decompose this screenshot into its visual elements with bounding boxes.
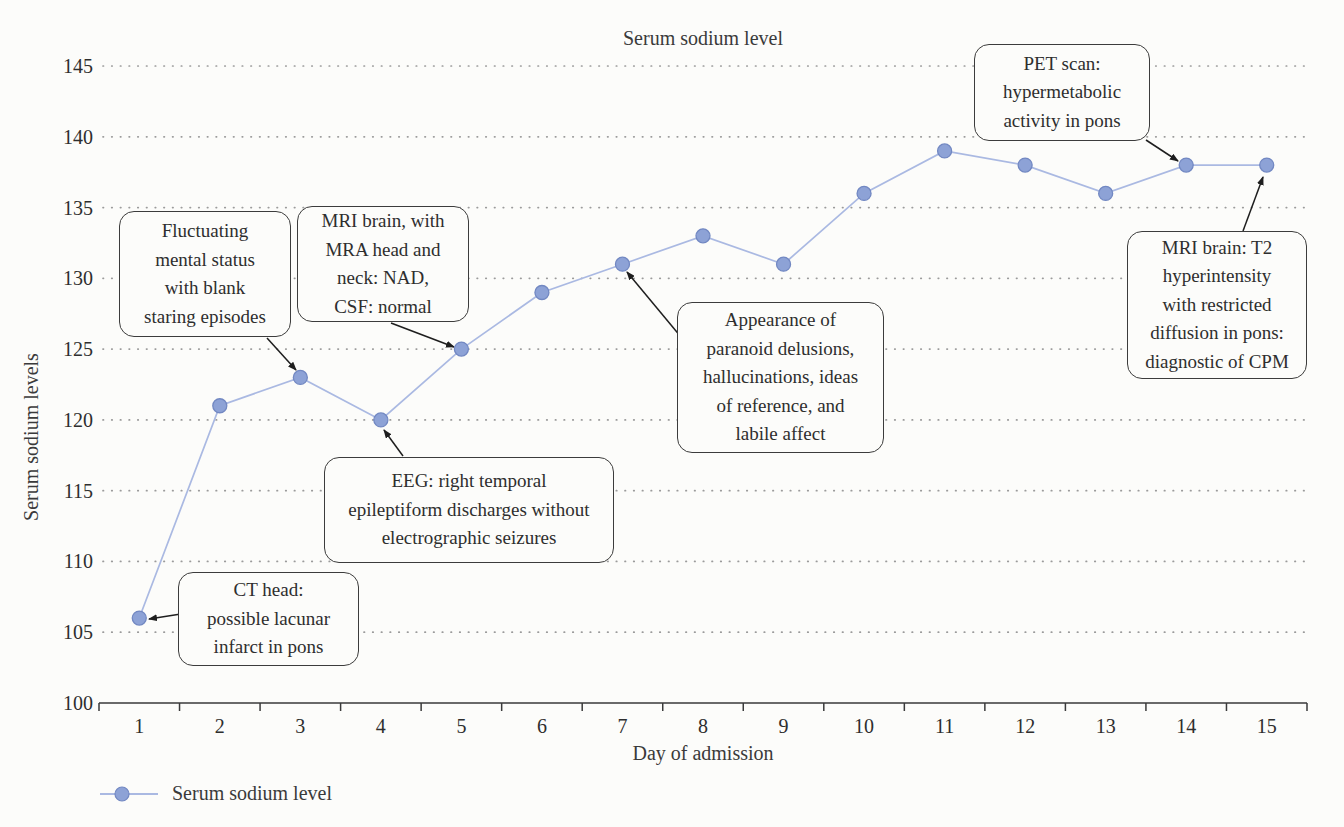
- data-point-day-15: [1260, 158, 1274, 172]
- annotation-paranoid-delusions: Appearance of paranoid delusions, halluc…: [677, 302, 884, 453]
- data-point-day-5: [454, 342, 468, 356]
- chart-figure: Serum sodium level Serum sodium levels 1…: [0, 0, 1344, 827]
- y-tick-label: 145: [63, 55, 93, 77]
- y-tick-label: 105: [63, 621, 93, 643]
- x-tick-label: 3: [295, 715, 305, 737]
- data-point-day-7: [615, 257, 629, 271]
- x-tick-label: 14: [1176, 715, 1196, 737]
- data-point-day-3: [293, 370, 307, 384]
- annotation-mri-brain-t2: MRI brain: T2 hyperintensity with restri…: [1127, 231, 1307, 379]
- x-tick-label: 2: [215, 715, 225, 737]
- x-tick-label: 4: [376, 715, 386, 737]
- x-tick-label: 15: [1257, 715, 1277, 737]
- data-point-day-13: [1099, 186, 1113, 200]
- y-tick-label: 100: [63, 692, 93, 714]
- x-tick-label: 5: [456, 715, 466, 737]
- x-tick-label: 12: [1015, 715, 1035, 737]
- legend: Serum sodium level: [98, 782, 332, 805]
- legend-label: Serum sodium level: [172, 782, 332, 805]
- annotation-arrow: [627, 272, 681, 337]
- annotation-eeg: EEG: right temporal epileptiform dischar…: [324, 457, 614, 563]
- x-tick-label: 7: [617, 715, 627, 737]
- x-tick-label: 11: [935, 715, 954, 737]
- data-point-day-12: [1018, 158, 1032, 172]
- y-tick-label: 135: [63, 197, 93, 219]
- x-tick-label: 1: [134, 715, 144, 737]
- annotation-mri-brain-mra: MRI brain, with MRA head and neck: NAD, …: [297, 206, 469, 322]
- y-tick-label: 125: [63, 338, 93, 360]
- y-tick-label: 130: [63, 267, 93, 289]
- data-point-day-10: [857, 186, 871, 200]
- y-tick-label: 140: [63, 126, 93, 148]
- data-point-day-1: [132, 611, 146, 625]
- x-tick-label: 8: [698, 715, 708, 737]
- legend-line-marker-icon: [98, 785, 160, 803]
- y-tick-label: 110: [64, 550, 93, 572]
- data-point-day-2: [213, 399, 227, 413]
- annotation-ct-head: CT head: possible lacunar infarct in pon…: [178, 572, 359, 666]
- annotation-arrow: [1146, 140, 1178, 161]
- data-point-day-11: [938, 144, 952, 158]
- annotation-pet-scan: PET scan: hypermetabolic activity in pon…: [974, 44, 1150, 141]
- x-axis-title: Day of admission: [99, 742, 1307, 765]
- x-tick-label: 6: [537, 715, 547, 737]
- annotation-arrow: [391, 323, 454, 347]
- x-tick-label: 9: [779, 715, 789, 737]
- y-tick-label: 115: [64, 480, 93, 502]
- data-point-day-9: [777, 257, 791, 271]
- annotation-arrow: [267, 338, 296, 370]
- annotation-arrow: [384, 430, 403, 456]
- y-tick-label: 120: [63, 409, 93, 431]
- data-point-day-8: [696, 229, 710, 243]
- data-point-day-4: [374, 413, 388, 427]
- data-point-day-6: [535, 285, 549, 299]
- x-tick-label: 13: [1096, 715, 1116, 737]
- annotation-fluctuating-mental-status: Fluctuating mental status with blank sta…: [119, 211, 291, 337]
- annotation-arrow: [1243, 177, 1263, 231]
- data-point-day-14: [1179, 158, 1193, 172]
- x-tick-label: 10: [854, 715, 874, 737]
